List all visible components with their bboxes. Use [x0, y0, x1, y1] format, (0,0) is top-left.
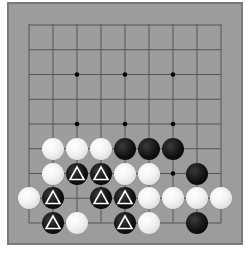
- black-stone[interactable]: [42, 212, 64, 234]
- star-point: [171, 72, 176, 77]
- triangle-marker-icon: [66, 163, 88, 185]
- star-point: [171, 122, 176, 127]
- white-stone[interactable]: [66, 212, 88, 234]
- triangle-marker-icon: [90, 163, 112, 185]
- star-point: [75, 72, 80, 77]
- white-stone[interactable]: [114, 163, 136, 185]
- black-stone[interactable]: [186, 212, 208, 234]
- white-stone[interactable]: [90, 138, 112, 160]
- triangle-marker-icon: [114, 212, 136, 234]
- triangle-marker-icon: [42, 212, 64, 234]
- white-stone[interactable]: [42, 163, 64, 185]
- black-stone[interactable]: [90, 163, 112, 185]
- white-stone[interactable]: [42, 138, 64, 160]
- black-stone[interactable]: [114, 187, 136, 209]
- black-stone[interactable]: [162, 138, 184, 160]
- black-stone[interactable]: [90, 187, 112, 209]
- triangle-marker-icon: [90, 187, 112, 209]
- star-point: [75, 122, 80, 127]
- triangle-marker-icon: [42, 187, 64, 209]
- black-stone[interactable]: [66, 163, 88, 185]
- black-stone[interactable]: [186, 163, 208, 185]
- star-point: [171, 171, 176, 176]
- triangle-marker-icon: [114, 187, 136, 209]
- black-stone[interactable]: [138, 138, 160, 160]
- star-point: [123, 72, 128, 77]
- star-point: [123, 122, 128, 127]
- white-stone[interactable]: [138, 163, 160, 185]
- black-stone[interactable]: [42, 187, 64, 209]
- black-stone[interactable]: [114, 212, 136, 234]
- black-stone[interactable]: [114, 138, 136, 160]
- white-stone[interactable]: [138, 212, 160, 234]
- white-stone[interactable]: [66, 138, 88, 160]
